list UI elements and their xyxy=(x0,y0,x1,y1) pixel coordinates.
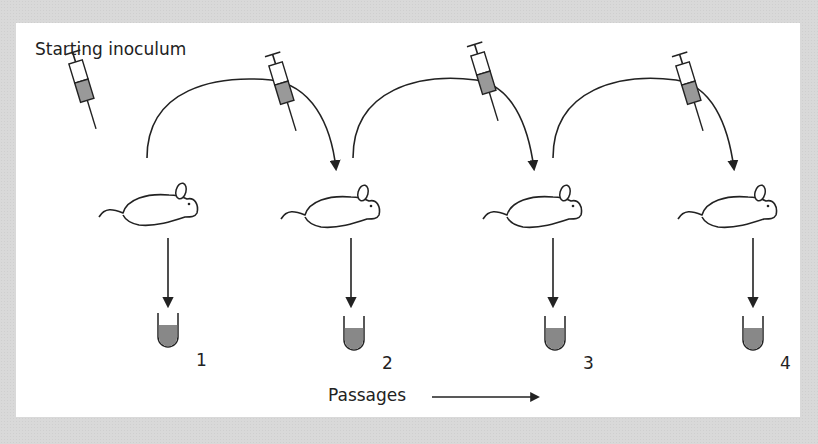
transfer-arrow-1 xyxy=(147,79,336,169)
syringe-icon xyxy=(672,52,711,133)
starting-inoculum-label: Starting inoculum xyxy=(35,39,186,59)
figure-panel: Starting inoculum 1 2 3 4 Passages xyxy=(16,23,800,417)
mouse-icon xyxy=(99,182,198,225)
tube-label-2: 2 xyxy=(382,353,393,373)
test-tube-icon xyxy=(743,316,763,350)
mouse-icon xyxy=(678,184,777,227)
passages-label: Passages xyxy=(328,385,406,405)
test-tube-icon xyxy=(545,316,565,350)
transfer-arrow-2 xyxy=(353,78,534,169)
syringe-icon xyxy=(65,50,104,131)
mouse-icon xyxy=(281,184,380,227)
tube-label-3: 3 xyxy=(583,353,594,373)
syringe-icon xyxy=(265,52,304,133)
test-tube-icon xyxy=(344,316,364,350)
mouse-icon xyxy=(483,184,582,227)
transfer-arrow-3 xyxy=(553,78,734,169)
syringe-icon xyxy=(467,42,506,123)
serial-passage-diagram xyxy=(16,23,800,417)
tube-label-4: 4 xyxy=(780,353,791,373)
tube-label-1: 1 xyxy=(196,350,207,370)
test-tube-icon xyxy=(158,313,178,347)
